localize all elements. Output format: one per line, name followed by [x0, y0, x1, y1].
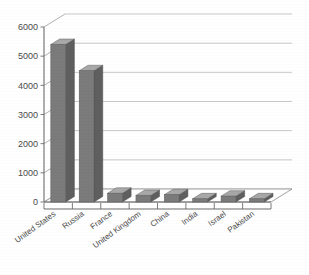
x-axis-category-label: India: [180, 209, 200, 227]
x-axis-category-label: United Kingdom: [91, 209, 143, 250]
x-axis-category-label: Israel: [206, 209, 227, 228]
bar-chart: 0100020003000400050006000 United StatesR…: [0, 0, 309, 275]
bars-group: [51, 39, 273, 202]
y-axis-tick-label: 1000: [18, 168, 38, 178]
x-axis-category-label: Russia: [61, 209, 87, 231]
y-axis-tick-label: 0: [33, 197, 38, 207]
axis-group: [44, 27, 271, 209]
x-axis-category-label: Pakistan: [226, 209, 256, 234]
y-axis-tick-label: 4000: [18, 81, 38, 91]
bar: [51, 39, 75, 202]
y-axis-labels: 0100020003000400050006000: [18, 22, 38, 207]
y-axis-tick-label: 3000: [18, 110, 38, 120]
chart-canvas: 0100020003000400050006000 United StatesR…: [0, 0, 309, 275]
bar: [79, 65, 103, 202]
x-axis-category-label: United States: [13, 209, 57, 245]
y-axis-tick-label: 5000: [18, 51, 38, 61]
tick-marks-group: [41, 27, 272, 209]
y-axis-tick-label: 6000: [18, 22, 38, 32]
x-axis-labels: United StatesRussiaFranceUnited KingdomC…: [13, 209, 256, 250]
y-axis-tick-label: 2000: [18, 139, 38, 149]
x-axis-category-label: China: [149, 209, 172, 229]
